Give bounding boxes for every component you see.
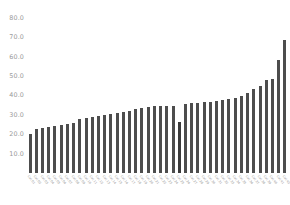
bar [35, 129, 38, 173]
y-axis-tick-label: 10.0 [9, 150, 24, 158]
bar [116, 113, 119, 173]
bar [234, 98, 237, 173]
bar [41, 128, 44, 173]
y-axis-tick-label: 80.0 [9, 14, 24, 22]
y-axis-tick-label: 30.0 [9, 111, 24, 119]
bar [265, 80, 268, 173]
bar [209, 102, 212, 173]
bar [72, 123, 75, 173]
bar [47, 127, 50, 173]
bar-series [27, 8, 288, 173]
bar [147, 107, 150, 173]
bar [66, 124, 69, 173]
bar [159, 106, 162, 173]
bar [165, 106, 168, 173]
bar [196, 103, 199, 173]
bar [122, 112, 125, 173]
bar [190, 103, 193, 173]
x-axis: Cat 01Cat 02Cat 03Cat 04Cat 05Cat 06Cat … [27, 173, 288, 205]
bar [134, 109, 137, 173]
bar [203, 102, 206, 173]
bar [215, 101, 218, 173]
bar [252, 89, 255, 173]
bar [109, 114, 112, 173]
bar [240, 96, 243, 173]
y-axis-tick-label: 40.0 [9, 91, 24, 99]
bar [29, 134, 32, 173]
bar [91, 117, 94, 173]
bar [172, 106, 175, 173]
bar [140, 108, 143, 173]
y-axis-tick-label: 50.0 [9, 72, 24, 80]
y-axis-tick-label: 70.0 [9, 33, 24, 41]
bar [277, 60, 280, 173]
bar [97, 116, 100, 173]
bar [184, 104, 187, 173]
bar [178, 122, 181, 173]
plot-area [27, 8, 288, 173]
bar-chart: 80.070.060.050.040.030.020.010.0 Cat 01C… [0, 0, 290, 205]
bar [53, 126, 56, 173]
bar [221, 100, 224, 173]
bar [227, 99, 230, 173]
bar [271, 79, 274, 173]
bar [60, 125, 63, 173]
bar [103, 115, 106, 173]
bar [85, 118, 88, 173]
bar [259, 86, 262, 173]
y-axis-tick-label: 60.0 [9, 53, 24, 61]
bar [128, 111, 131, 173]
bar [78, 119, 81, 173]
bar [283, 40, 286, 173]
y-axis: 80.070.060.050.040.030.020.010.0 [0, 0, 27, 205]
y-axis-tick-label: 20.0 [9, 130, 24, 138]
bar [153, 106, 156, 173]
bar [246, 93, 249, 173]
